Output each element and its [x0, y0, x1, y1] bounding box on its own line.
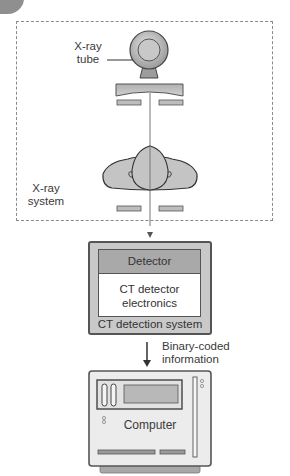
ct-detection-system-label: CT detection system	[90, 318, 210, 330]
detector-block: Detector	[98, 249, 201, 273]
link-label-line2: information	[162, 353, 242, 366]
electronics-line1: CT detector	[99, 282, 200, 296]
xray-system-label-line1: X-ray	[24, 182, 68, 195]
link-label-line1: Binary-coded	[162, 340, 242, 353]
beam-arrowhead-icon	[147, 232, 153, 238]
xray-tube-label-line1: X-ray	[68, 40, 108, 53]
electronics-line2: electronics	[99, 296, 200, 310]
xray-tube-label-line2: tube	[68, 53, 108, 66]
data-arrow-head-icon	[143, 360, 151, 367]
ct-detector-electronics-block: CT detector electronics	[98, 273, 201, 317]
xray-system-label: X-ray system	[24, 182, 68, 208]
post-patient-slit-right	[159, 206, 183, 211]
pre-patient-slit-left	[117, 100, 141, 105]
post-patient-slit-left	[117, 206, 141, 211]
xray-tube-label: X-ray tube	[68, 40, 108, 66]
xray-system-label-line2: system	[24, 195, 68, 208]
computer-label: Computer	[110, 419, 190, 432]
diagram-graphics	[0, 0, 290, 476]
ct-detection-system-box: Detector CT detector electronics CT dete…	[88, 241, 212, 335]
pre-patient-slit-right	[159, 100, 183, 105]
binary-coded-information-label: Binary-coded information	[162, 340, 242, 366]
xray-tube-icon	[130, 31, 168, 78]
